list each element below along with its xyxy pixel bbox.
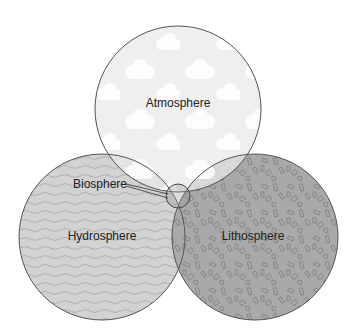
biosphere-label: Biosphere [73, 177, 127, 191]
biosphere-circle [166, 184, 190, 208]
lithosphere-label: Lithosphere [222, 229, 285, 243]
hydrosphere-label: Hydrosphere [68, 229, 137, 243]
atmosphere-label: Atmosphere [146, 96, 211, 110]
spheres-venn-diagram: Atmosphere Hydrosphere Lithosphere Biosp… [0, 0, 359, 335]
